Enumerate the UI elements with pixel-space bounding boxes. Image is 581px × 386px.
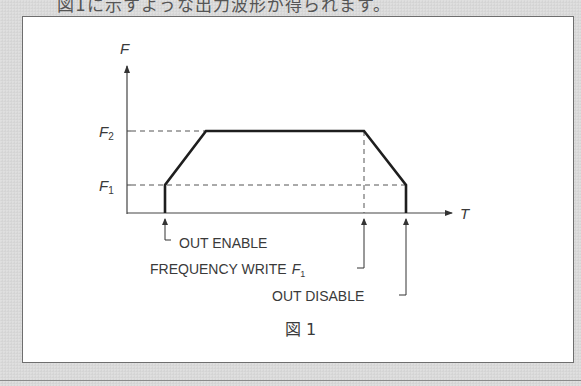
figure-caption: 図 1 <box>285 320 316 339</box>
frequency-waveform <box>165 131 406 213</box>
out-disable-label: OUT DISABLE <box>272 288 364 304</box>
out-enable-callout <box>165 219 171 240</box>
x-axis-label: T <box>460 205 471 222</box>
y-axis-label: F <box>120 40 130 57</box>
f2-label: F2 <box>99 123 114 142</box>
f1-label: F1 <box>99 177 114 196</box>
frequency-write-callout <box>357 219 364 268</box>
frequency-write-label: FREQUENCY WRITEF1 <box>150 261 305 279</box>
frequency-timing-diagram: F T F2 F1 OUT ENABLE FREQUENCY WRITEF1 O… <box>0 0 581 386</box>
out-disable-callout <box>399 219 406 295</box>
out-enable-label: OUT ENABLE <box>179 235 267 251</box>
